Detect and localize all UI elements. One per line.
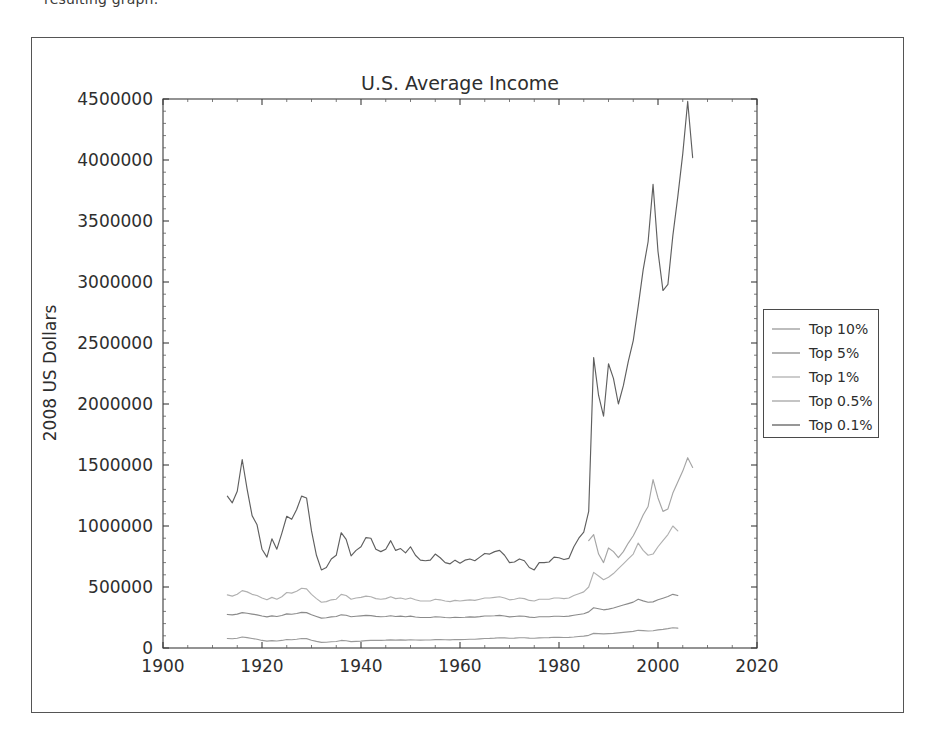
x-tick-label: 1900 xyxy=(141,656,184,676)
legend-label-4[interactable]: Top 0.1% xyxy=(808,417,873,433)
series-line-top-1 xyxy=(227,526,677,602)
y-tick-label: 1000000 xyxy=(77,516,153,536)
x-tick-label: 1960 xyxy=(438,656,481,676)
y-tick-label: 3000000 xyxy=(77,272,153,292)
series-line-top-0-1 xyxy=(227,101,692,569)
screenshot-page: resulting graph. 19001920194019601980200… xyxy=(0,0,935,744)
chart-title: U.S. Average Income xyxy=(361,72,559,94)
y-axis-title: 2008 US Dollars xyxy=(40,305,60,442)
y-tick-label: 1500000 xyxy=(77,455,153,475)
us-average-income-chart: 1900192019401960198020002020 05000001000… xyxy=(0,0,935,744)
legend-label-1[interactable]: Top 5% xyxy=(808,345,859,361)
series-line-top-5 xyxy=(227,594,677,618)
chart-legend[interactable]: Top 10%Top 5%Top 1%Top 0.5%Top 0.1% xyxy=(764,310,879,438)
legend-label-0[interactable]: Top 10% xyxy=(808,321,868,337)
data-series-layer xyxy=(227,101,692,642)
y-tick-label: 2000000 xyxy=(77,394,153,414)
y-tick-label: 4000000 xyxy=(77,150,153,170)
y-tick-label: 500000 xyxy=(88,577,153,597)
x-axis-ticks: 1900192019401960198020002020 xyxy=(141,99,778,676)
x-tick-label: 1920 xyxy=(240,656,283,676)
y-axis-ticks: 0500000100000015000002000000250000030000… xyxy=(77,89,757,658)
legend-label-3[interactable]: Top 0.5% xyxy=(808,393,873,409)
y-tick-label: 2500000 xyxy=(77,333,153,353)
y-tick-label: 4500000 xyxy=(77,89,153,109)
x-tick-label: 2020 xyxy=(735,656,778,676)
y-tick-label: 3500000 xyxy=(77,211,153,231)
series-line-top-10 xyxy=(227,628,677,643)
legend-label-2[interactable]: Top 1% xyxy=(808,369,859,385)
y-tick-label: 0 xyxy=(142,638,153,658)
x-tick-label: 1980 xyxy=(537,656,580,676)
x-tick-label: 2000 xyxy=(636,656,679,676)
x-tick-label: 1940 xyxy=(339,656,382,676)
plot-axes-spines xyxy=(163,99,757,648)
